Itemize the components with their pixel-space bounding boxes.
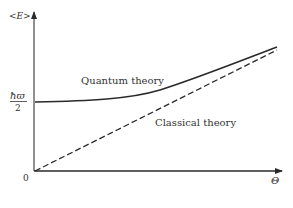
- zero-point-denominator: 2: [15, 103, 21, 113]
- classical-theory-line: [35, 50, 277, 171]
- zero-point-numerator: ħϖ: [10, 90, 25, 101]
- x-axis-label: Θ: [271, 175, 279, 186]
- origin-label: 0: [23, 173, 29, 183]
- y-axis-label: <E>: [9, 11, 31, 21]
- classical-theory-label: Classical theory: [155, 117, 236, 128]
- quantum-theory-label: Quantum theory: [81, 75, 164, 86]
- energy-vs-temperature-diagram: <E> ħϖ 2 0 Θ Quantum theory Classical th…: [0, 0, 293, 208]
